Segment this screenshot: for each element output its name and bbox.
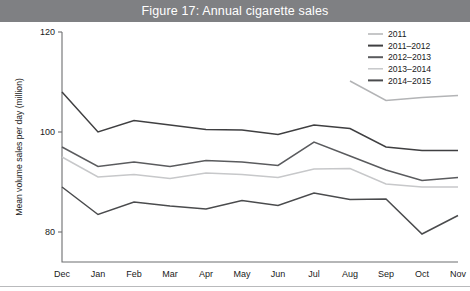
- y-tick-label: 80: [45, 227, 55, 237]
- series-line-2011-2012: [62, 92, 458, 151]
- chart-plot-area: 80100120 DecJanFebMarAprMayJunJulAugSepO…: [0, 22, 470, 291]
- y-axis-title: Mean volume sales per day (million): [14, 78, 24, 216]
- x-tick-label: Jun: [271, 269, 286, 279]
- x-tick-label: Apr: [199, 269, 213, 279]
- figure-container: Figure 17: Annual cigarette sales 801001…: [0, 0, 470, 291]
- y-tick-label: 100: [40, 127, 55, 137]
- x-axis-ticks: DecJanFebMarAprMayJunJulAugSepOctNov: [54, 269, 467, 279]
- page-title: Figure 17: Annual cigarette sales: [141, 4, 328, 18]
- y-axis-ticks: 80100120: [40, 27, 62, 237]
- x-tick-label: Oct: [415, 269, 430, 279]
- y-axis-title-text: Mean volume sales per day (million): [14, 78, 24, 216]
- legend-label: 2012–2013: [388, 52, 431, 62]
- line-chart: 80100120 DecJanFebMarAprMayJunJulAugSepO…: [0, 22, 470, 291]
- x-tick-label: Sep: [378, 269, 394, 279]
- chart-series: [62, 81, 458, 234]
- chart-legend: 20112011–20122012–20132013–20142014–2015: [368, 29, 431, 85]
- legend-label: 2011: [388, 29, 407, 39]
- series-line-2014-2015: [62, 187, 458, 234]
- legend-label: 2013–2014: [388, 64, 431, 74]
- x-tick-label: Jan: [91, 269, 106, 279]
- legend-label: 2011–2012: [388, 41, 431, 51]
- y-tick-label: 120: [40, 27, 55, 37]
- x-tick-label: Feb: [126, 269, 142, 279]
- legend-label: 2014–2015: [388, 76, 431, 86]
- bottom-divider: [0, 286, 470, 287]
- series-line-2013-2014: [62, 157, 458, 187]
- figure-title-banner: Figure 17: Annual cigarette sales: [0, 0, 470, 22]
- x-tick-label: Dec: [54, 269, 71, 279]
- x-tick-label: Jul: [308, 269, 320, 279]
- x-tick-label: May: [233, 269, 251, 279]
- x-tick-label: Mar: [162, 269, 178, 279]
- x-tick-label: Aug: [342, 269, 358, 279]
- x-tick-label: Nov: [450, 269, 467, 279]
